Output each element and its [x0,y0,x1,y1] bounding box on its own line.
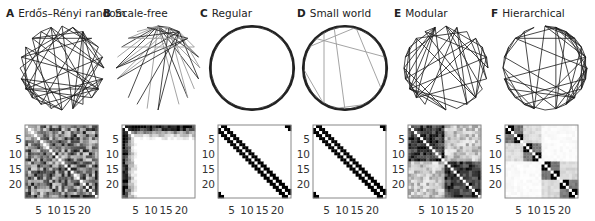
matrix-cell [165,155,168,158]
matrix-cell [560,137,563,140]
matrix-cell [282,177,285,180]
matrix-cell [180,155,183,158]
matrix-cell [49,177,52,180]
matrix-cell [469,128,472,131]
matrix-cell [159,128,162,131]
matrix-cell [328,143,331,146]
matrix-cell [526,125,529,128]
matrix-cell [137,177,140,180]
matrix-cell [331,140,334,143]
matrix-cell [140,177,143,180]
matrix-cell [538,125,541,128]
matrix-cell [40,131,43,134]
matrix-cell [466,155,469,158]
matrix-cell [545,171,548,174]
matrix-cell [52,192,55,195]
matrix-cell [316,128,319,131]
matrix-cell [517,128,520,131]
matrix-cell [245,146,248,149]
matrix-cell [532,180,535,183]
matrix-cell [505,183,508,186]
matrix-cell [37,125,40,128]
matrix-cell [92,171,95,174]
matrix-cell [454,180,457,183]
matrix-cell [58,186,61,189]
matrix-cell [362,128,365,131]
matrix-cell [140,149,143,152]
matrix-cell [423,168,426,171]
matrix-cell [505,162,508,165]
matrix-cell [165,137,168,140]
matrix-cell [508,155,511,158]
matrix-cell [560,165,563,168]
matrix-cell [319,155,322,158]
matrix-cell [186,149,189,152]
matrix-cell [40,146,43,149]
matrix-cell [74,183,77,186]
matrix-cell [186,146,189,149]
matrix-cell [58,192,61,195]
matrix-cell [270,134,273,137]
matrix-cell [460,165,463,168]
matrix-cell [131,162,134,165]
matrix-cell [429,125,432,128]
matrix-cell [542,186,545,189]
matrix-cell [245,171,248,174]
matrix-cell [331,168,334,171]
matrix-cell [322,146,325,149]
matrix-cell [346,143,349,146]
matrix-cell [49,180,52,183]
matrix-cell [448,149,451,152]
network-graph [499,22,591,114]
matrix-cell [435,137,438,140]
matrix-cell [264,149,267,152]
matrix-cell [523,137,526,140]
matrix-cell [242,149,245,152]
matrix-cell [261,189,264,192]
matrix-cell [230,128,233,131]
matrix-cell [58,158,61,161]
matrix-cell [356,171,359,174]
matrix-cell [162,183,165,186]
matrix-cell [475,152,478,155]
matrix-cell [334,131,337,134]
matrix-cell [532,152,535,155]
matrix-cell [356,146,359,149]
matrix-cell [25,158,28,161]
matrix-cell [227,125,230,128]
matrix-cell [426,174,429,177]
matrix-cell [563,143,566,146]
matrix-cell [74,125,77,128]
matrix-cell [535,165,538,168]
matrix-cell [368,149,371,152]
matrix-cell [414,137,417,140]
matrix-cell [362,192,365,195]
matrix-cell [83,140,86,143]
matrix-cell [171,134,174,137]
matrix-cell [542,180,545,183]
matrix-cell [448,165,451,168]
matrix-cell [566,125,569,128]
matrix-cell [551,174,554,177]
matrix-cell [221,125,224,128]
matrix-cell [143,186,146,189]
matrix-cell [356,125,359,128]
matrix-cell [236,171,239,174]
matrix-cell [221,131,224,134]
matrix-cell [466,168,469,171]
matrix-cell [316,189,319,192]
matrix-cell [526,162,529,165]
matrix-cell [77,171,80,174]
matrix-cell [535,189,538,192]
matrix-cell [171,174,174,177]
matrix-cell [140,186,143,189]
matrix-cell [472,180,475,183]
matrix-cell [236,180,239,183]
matrix-cell [560,183,563,186]
matrix-cell [28,177,31,180]
matrix-cell [171,162,174,165]
matrix-cell [183,162,186,165]
matrix-cell [517,189,520,192]
matrix-cell [542,143,545,146]
matrix-cell [548,165,551,168]
